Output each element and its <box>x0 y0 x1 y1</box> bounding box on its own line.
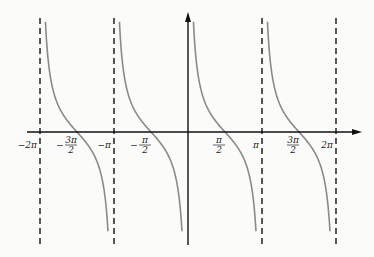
tick-sign: − <box>130 140 138 150</box>
tick-denominator: 2 <box>215 145 222 155</box>
tick-label: −2π <box>18 140 38 150</box>
tick-numerator: π <box>141 135 149 145</box>
tick-numerator: 3π <box>65 135 78 145</box>
x-axis-arrow <box>352 129 362 135</box>
tick-numerator: 3π <box>287 135 300 145</box>
tick-numerator: π <box>215 135 223 145</box>
tick-label: π <box>252 140 260 150</box>
tick-denominator: 2 <box>289 145 296 155</box>
tick-sign: − <box>56 140 64 150</box>
cot-branch <box>193 22 256 232</box>
tick-label: −π2 <box>130 135 151 155</box>
tick-label: 3π2 <box>287 135 300 155</box>
cot-branch <box>119 22 182 232</box>
tick-label: −3π2 <box>56 135 78 155</box>
cotangent-chart: −2π−3π2−π−π2π2π3π22π <box>0 0 374 257</box>
tick-denominator: 2 <box>67 145 74 155</box>
cot-branch <box>267 22 330 232</box>
cot-branch <box>45 22 108 232</box>
tick-label: π2 <box>213 135 225 155</box>
tick-label: 2π <box>320 140 334 150</box>
tick-label: −π <box>98 140 113 150</box>
y-axis-arrow <box>185 12 191 22</box>
tick-denominator: 2 <box>141 145 148 155</box>
